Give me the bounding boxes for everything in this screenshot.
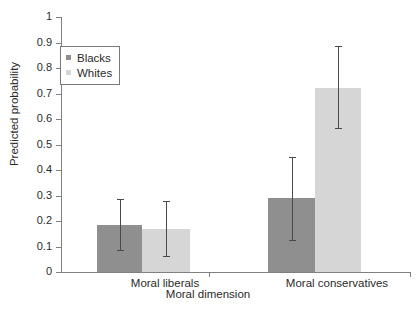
legend-item-blacks: Blacks [66,50,112,65]
error-bar-line [292,157,293,240]
error-bar-cap-upper [289,157,296,158]
y-tick-mark [56,272,61,273]
legend-label-blacks: Blacks [77,52,111,64]
legend-swatch-icon-blacks [66,55,71,60]
error-bar-cap-upper [163,201,170,202]
error-bar-cap-upper [335,46,342,47]
error-bar-cap-lower [117,250,124,251]
error-bar-line [338,46,339,128]
legend: Blacks Whites [60,46,120,85]
x-axis-line [61,272,410,273]
y-tick-label: 0 [0,266,52,277]
legend-label-whites: Whites [77,67,112,79]
legend-swatch-icon-whites [66,70,71,75]
y-tick-label: 0.2 [0,215,52,226]
y-axis-title: Predicted probability [8,14,20,214]
error-bar-cap-upper [117,199,124,200]
bar-chart: 00.10.20.30.40.50.60.70.80.91 Predicted … [0,0,416,311]
error-bar-cap-lower [163,256,170,257]
y-tick-label: 0.1 [0,241,52,252]
error-bar-cap-lower [335,128,342,129]
error-bar-line [166,201,167,256]
legend-item-whites: Whites [66,65,112,80]
error-bar-cap-lower [289,240,296,241]
error-bar-line [120,199,121,250]
x-axis-title: Moral dimension [0,288,416,300]
